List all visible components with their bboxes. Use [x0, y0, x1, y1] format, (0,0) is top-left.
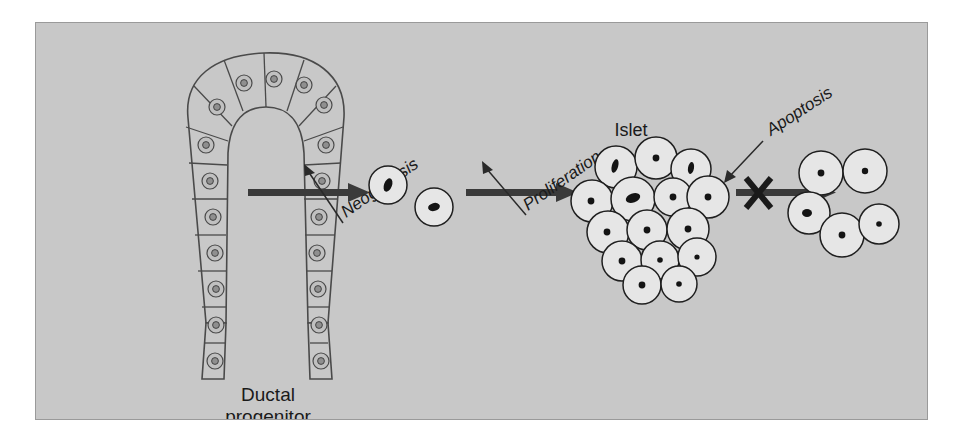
single-cell [415, 188, 453, 226]
apoptosis-label: Apoptosis [762, 82, 836, 139]
duct-nucleus [202, 173, 218, 189]
duct-nucleus [310, 281, 326, 297]
duct-nucleus [311, 317, 327, 333]
duct-nucleus [314, 173, 330, 189]
duct-nucleus [296, 77, 312, 93]
duct-nucleus [205, 209, 221, 225]
islet-cell [623, 266, 661, 304]
duct-nucleus [208, 281, 224, 297]
figure-root: Ductal progenitor cells Neogenesis [0, 0, 957, 440]
duct-nucleus [309, 245, 325, 261]
duct-nucleus [208, 317, 224, 333]
duct-nucleus [313, 353, 329, 369]
duct-nucleus [198, 137, 214, 153]
duct-nucleus [207, 353, 223, 369]
duct-caption-line-1: Ductal [241, 384, 295, 405]
diagram-canvas: Ductal progenitor cells Neogenesis [36, 23, 928, 420]
duct-nucleus [207, 245, 223, 261]
cluster-cell [843, 149, 887, 193]
duct-nucleus [266, 71, 282, 87]
diagram-panel: Ductal progenitor cells Neogenesis [35, 22, 928, 420]
cluster-cell [799, 151, 843, 195]
duct-nucleus [318, 137, 334, 153]
duct-nucleus [316, 97, 332, 113]
reduced-cell-cluster [788, 149, 899, 257]
cluster-cell [859, 204, 899, 244]
islet-cell [661, 266, 697, 302]
cluster-cell [820, 213, 864, 257]
duct-nucleus [236, 75, 252, 91]
ductal-progenitor-structure [186, 53, 344, 379]
duct-nucleus [209, 99, 225, 115]
duct-nucleus [311, 209, 327, 225]
single-cell [369, 166, 407, 204]
islet-label: Islet [614, 120, 647, 140]
duct-caption-line-2: progenitor [225, 406, 311, 420]
